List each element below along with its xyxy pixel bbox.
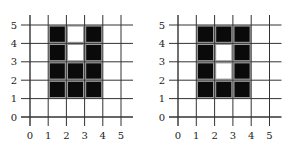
- filled-cell: [234, 63, 250, 79]
- y-tick-label: 3: [159, 56, 165, 67]
- filled-cell: [216, 81, 232, 97]
- filled-cell: [49, 26, 65, 42]
- filled-cell: [86, 63, 102, 79]
- filled-cell: [49, 63, 65, 79]
- filled-cell: [234, 26, 250, 42]
- empty-cell: [216, 44, 232, 60]
- filled-cell: [197, 63, 213, 79]
- y-tick-label: 2: [11, 75, 17, 86]
- y-tick-label: 1: [11, 93, 17, 104]
- filled-cell: [197, 81, 213, 97]
- y-tick-label: 5: [159, 20, 165, 31]
- x-tick-label: 5: [266, 130, 272, 141]
- y-tick-label: 1: [159, 93, 165, 104]
- x-tick-label: 3: [230, 130, 236, 141]
- filled-cell: [197, 44, 213, 60]
- y-tick-label: 0: [11, 112, 17, 123]
- pixel-grid-diagram: 012345012345012345012345: [0, 0, 296, 153]
- empty-cell: [216, 63, 232, 79]
- x-tick-label: 0: [175, 130, 181, 141]
- x-tick-label: 4: [248, 130, 254, 141]
- x-tick-label: 3: [81, 130, 87, 141]
- filled-cell: [216, 26, 232, 42]
- x-tick-label: 5: [118, 130, 124, 141]
- x-tick-label: 1: [45, 130, 51, 141]
- y-tick-label: 4: [159, 38, 165, 49]
- x-tick-label: 2: [63, 130, 69, 141]
- filled-cell: [197, 26, 213, 42]
- y-tick-label: 2: [159, 75, 165, 86]
- empty-cell: [67, 26, 83, 42]
- y-tick-label: 5: [11, 20, 17, 31]
- right-grid: 012345012345: [159, 15, 282, 141]
- x-tick-label: 2: [211, 130, 217, 141]
- x-tick-label: 0: [27, 130, 33, 141]
- filled-cell: [86, 26, 102, 42]
- filled-cell: [49, 44, 65, 60]
- filled-cell: [86, 81, 102, 97]
- y-tick-label: 3: [11, 56, 17, 67]
- x-tick-label: 1: [193, 130, 199, 141]
- filled-cell: [234, 44, 250, 60]
- filled-cell: [86, 44, 102, 60]
- empty-cell: [67, 44, 83, 60]
- filled-cell: [67, 81, 83, 97]
- y-tick-label: 0: [159, 112, 165, 123]
- x-tick-label: 4: [100, 130, 106, 141]
- y-tick-label: 4: [11, 38, 17, 49]
- filled-cell: [67, 63, 83, 79]
- filled-cell: [49, 81, 65, 97]
- filled-cell: [234, 81, 250, 97]
- left-grid: 012345012345: [11, 15, 133, 141]
